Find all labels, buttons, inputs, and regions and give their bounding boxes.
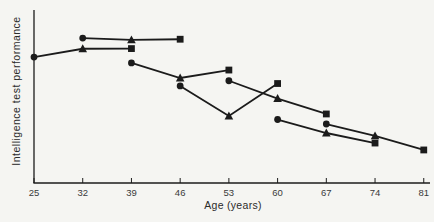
x-tick-label: 32 <box>77 187 88 198</box>
marker-square <box>323 111 330 118</box>
marker-square <box>372 140 379 147</box>
y-axis-title: Intelligence test performance <box>10 16 22 165</box>
marker-circle <box>79 35 86 42</box>
x-tick-label: 81 <box>418 187 429 198</box>
x-axis-title: Age (years) <box>204 199 262 211</box>
x-tick-label: 25 <box>29 187 40 198</box>
marker-square <box>128 45 135 52</box>
marker-circle <box>128 60 135 67</box>
marker-circle <box>31 54 38 61</box>
line-chart: 253239465360677481 <box>0 0 434 222</box>
marker-square <box>274 80 281 87</box>
marker-circle <box>274 116 281 123</box>
x-tick-label: 46 <box>175 187 186 198</box>
x-tick-label: 39 <box>126 187 137 198</box>
marker-circle <box>225 77 232 84</box>
marker-triangle <box>225 112 234 120</box>
marker-square <box>225 67 232 74</box>
x-tick-label: 60 <box>272 187 283 198</box>
marker-square <box>177 36 184 43</box>
chart-figure: 253239465360677481 Intelligence test per… <box>0 0 434 222</box>
marker-circle <box>323 121 330 128</box>
x-tick-label: 74 <box>370 187 381 198</box>
marker-square <box>420 147 427 154</box>
x-tick-label: 53 <box>224 187 235 198</box>
series-line-cohort-age-46-60 <box>180 84 277 117</box>
x-tick-label: 67 <box>321 187 332 198</box>
marker-circle <box>177 83 184 90</box>
